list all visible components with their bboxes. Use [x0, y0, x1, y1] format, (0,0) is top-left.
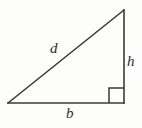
hypotenuse-line	[8, 10, 124, 103]
hypotenuse-label: d	[50, 41, 58, 56]
right-angle-square-icon	[109, 88, 124, 103]
right-triangle-figure: d h b	[0, 0, 142, 128]
vertical-leg-label: h	[127, 54, 135, 69]
horizontal-leg-label: b	[66, 106, 74, 121]
